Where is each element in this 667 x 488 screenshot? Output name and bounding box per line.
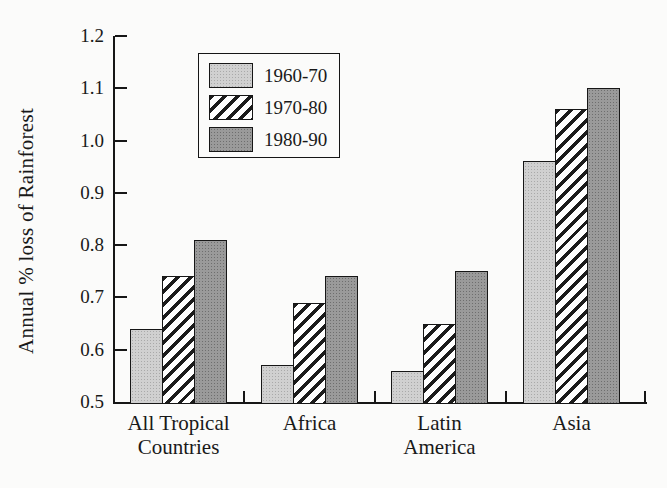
- bar-1980-90-latin-america: [455, 271, 488, 404]
- legend-row-1970-80: 1970-80: [209, 95, 327, 120]
- y-tick-label-1.1: 1.1: [58, 77, 104, 99]
- legend-swatch-light-halftone: [209, 63, 253, 88]
- x-tick-mark-3: [505, 391, 507, 402]
- bar-1970-80-latin-america: [423, 324, 456, 404]
- bar-1960-70-latin-america: [391, 371, 424, 404]
- x-tick-mark-2: [374, 391, 376, 402]
- x-tick-mark-4: [644, 391, 646, 402]
- bar-1980-90-asia: [587, 88, 620, 404]
- y-tick-label-0.8: 0.8: [58, 234, 104, 256]
- y-tick-label-0.5: 0.5: [58, 391, 104, 413]
- y-tick-label-0.7: 0.7: [58, 286, 104, 308]
- legend-swatch-diagonal-hatch: [209, 95, 253, 120]
- y-tick-mark-0.8: [115, 244, 127, 246]
- y-tick-mark-1.0: [115, 140, 127, 142]
- bar-1970-80-africa: [293, 303, 326, 404]
- rainforest-loss-bar-chart: Annual % loss of Rainforest 0.50.60.70.8…: [0, 0, 667, 488]
- x-category-label-asia: Asia: [492, 411, 652, 435]
- y-tick-label-1.2: 1.2: [58, 25, 104, 47]
- legend-label-1970-80: 1970-80: [264, 95, 327, 120]
- legend-swatch-dark-halftone: [209, 127, 253, 152]
- bar-1960-70-asia: [523, 161, 556, 404]
- legend-row-1960-70: 1960-70: [209, 63, 327, 88]
- y-tick-label-0.6: 0.6: [58, 339, 104, 361]
- y-tick-mark-0.6: [115, 349, 127, 351]
- bar-1970-80-asia: [555, 109, 588, 404]
- bar-1980-90-africa: [325, 276, 358, 404]
- y-tick-mark-0.7: [115, 296, 127, 298]
- y-tick-label-0.9: 0.9: [58, 182, 104, 204]
- legend-box: 1960-701970-801980-90: [198, 53, 340, 158]
- bar-1960-70-africa: [261, 365, 294, 404]
- y-tick-mark-1.1: [115, 87, 127, 89]
- legend-label-1960-70: 1960-70: [264, 63, 327, 88]
- y-tick-label-1.0: 1.0: [58, 130, 104, 152]
- y-tick-mark-0.9: [115, 192, 127, 194]
- y-axis-title: Annual % loss of Rainforest: [14, 108, 39, 354]
- y-tick-mark-1.2: [115, 35, 127, 37]
- legend-row-1980-90: 1980-90: [209, 127, 327, 152]
- bar-1980-90-all-tropical-countries: [194, 240, 227, 404]
- bar-1970-80-all-tropical-countries: [162, 276, 195, 404]
- legend-label-1980-90: 1980-90: [264, 127, 327, 152]
- x-tick-mark-1: [243, 391, 245, 402]
- bar-1960-70-all-tropical-countries: [130, 329, 163, 404]
